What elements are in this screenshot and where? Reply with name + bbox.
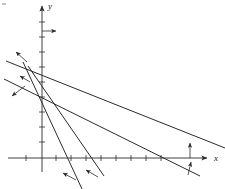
x-axis-label: x	[213, 153, 218, 163]
coordinate-plane-svg: x y	[0, 0, 225, 189]
arrow-steep-b-upleft	[86, 170, 98, 177]
arrow-steep-a-upleft	[63, 173, 76, 180]
boundary-lines	[4, 61, 225, 189]
line-medium	[4, 79, 200, 176]
line-steep-a	[23, 62, 82, 189]
line-shallow	[6, 61, 225, 148]
arrow-shallow-upleft	[16, 52, 27, 62]
line-steep-b	[28, 66, 104, 176]
arrow-medium-upleft	[20, 76, 30, 82]
x-axis: x	[8, 153, 218, 163]
arrow-medium-upright	[188, 162, 191, 175]
y-axis: y	[39, 1, 52, 172]
arrow-steep-downleft	[12, 86, 25, 96]
graph-figure: x y	[0, 0, 225, 189]
y-axis-label: y	[47, 1, 52, 11]
